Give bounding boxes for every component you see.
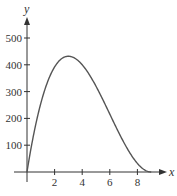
x-axis-arrow-icon xyxy=(159,169,167,175)
y-tick-label: 300 xyxy=(6,86,23,98)
y-tick-label: 200 xyxy=(6,112,23,124)
x-axis-label: x xyxy=(168,165,175,179)
y-axis-arrow-icon xyxy=(24,17,30,25)
x-tick-label: 2 xyxy=(52,176,58,188)
y-tick-label: 400 xyxy=(6,59,23,71)
x-tick-label: 4 xyxy=(79,176,85,188)
y-tick-label: 500 xyxy=(6,32,23,44)
y-axis-label: y xyxy=(23,2,30,16)
y-tick-label: 100 xyxy=(6,139,23,151)
data-curve xyxy=(27,56,151,172)
ticks: 2468100200300400500 xyxy=(6,32,141,188)
x-tick-label: 6 xyxy=(107,176,113,188)
chart: 2468100200300400500 x y xyxy=(0,0,177,196)
axes xyxy=(14,17,167,182)
x-tick-label: 8 xyxy=(135,176,141,188)
